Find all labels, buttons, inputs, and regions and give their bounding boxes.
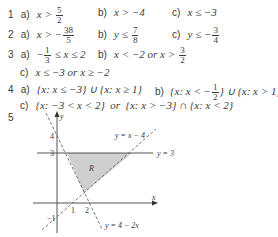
tick-y-3: 3 [50, 149, 54, 158]
tick-y-minus-1: −1 [47, 214, 56, 223]
line-y-equals-x-minus-4 [42, 129, 156, 230]
label-y-equals-4-minus-2x: y = 4 − 2x [104, 221, 139, 230]
y-axis-arrow-icon [55, 111, 60, 117]
region-label: R [88, 164, 94, 173]
tick-x-2: 2 [85, 206, 89, 215]
tick-x-1: 1 [71, 206, 75, 215]
label-y-equals-3: y = 3 [156, 149, 174, 158]
inequality-graph: y x 4 3 1 2 −1 R y = 3 y = x − 4 y = 4 −… [0, 0, 278, 237]
y-axis-label: y [59, 112, 64, 121]
tick-y-4: 4 [50, 132, 54, 141]
label-y-equals-x-minus-4: y = x − 4 [114, 131, 145, 140]
x-axis-label: x [151, 193, 156, 202]
